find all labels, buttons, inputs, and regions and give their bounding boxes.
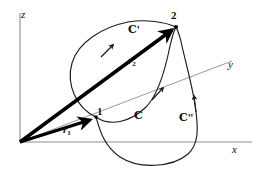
vector-r1 [20, 120, 90, 142]
vector-r2 [20, 30, 172, 142]
curve-c-prime-arrowhead [101, 45, 113, 57]
y-axis-label: y [228, 59, 233, 70]
point-2-marker [174, 25, 178, 29]
x-axis-label: x [232, 144, 237, 155]
point-1-label: 1 [97, 106, 103, 117]
vector-r2-label: r2 [128, 55, 136, 66]
curve-c-symbol: C [134, 109, 143, 122]
curve-c-double-prime-symbol: C [179, 111, 188, 124]
vector-r2-subscript: 2 [132, 60, 136, 68]
curve-c-label: C [134, 110, 143, 121]
y-axis-line [20, 61, 232, 142]
vector-r1-label: r1 [63, 124, 71, 135]
curve-c-prime-label: C' [128, 24, 139, 35]
vector-group [20, 30, 172, 142]
curve-c-prime-prime-marks: ' [137, 24, 140, 35]
curve-c-double-prime-label: C'' [179, 112, 193, 123]
z-axis-label: z [21, 9, 25, 20]
curve-c-double-prime-marks: '' [188, 112, 193, 123]
curve-c-prime-symbol: C [128, 23, 137, 36]
point-2-label: 2 [171, 10, 177, 21]
vector-r1-subscript: 1 [67, 129, 71, 137]
curve-c-double-prime-arrowhead [194, 96, 196, 112]
